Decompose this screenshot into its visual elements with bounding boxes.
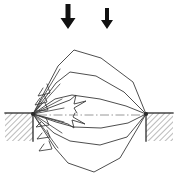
- lens-outline-4: [33, 114, 146, 128]
- right-support-hatch: [146, 113, 173, 141]
- hinge-group: [31, 112, 148, 116]
- right-load-arrow: [101, 8, 113, 29]
- lens-outline-1: [33, 50, 146, 114]
- diagram-svg: [0, 0, 177, 183]
- lens-outline-3: [33, 95, 146, 114]
- left-hinge: [31, 112, 35, 116]
- left-load-arrow: [61, 4, 76, 29]
- left-support-hatch: [5, 113, 33, 141]
- right-hinge: [144, 112, 148, 116]
- support-group: [5, 113, 173, 141]
- load-arrow-group: [61, 4, 114, 29]
- arrowhead-6: [39, 141, 52, 151]
- figure-canvas: Crack opening displacement diagram techn…: [0, 0, 177, 183]
